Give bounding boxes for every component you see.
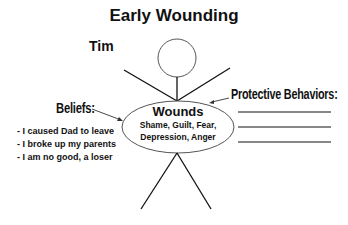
person-name: Tim [89, 38, 114, 54]
diagram-title: Early Wounding [0, 6, 348, 26]
beliefs-label: Beliefs: [56, 99, 95, 116]
belief-item: - I caused Dad to leave [17, 125, 116, 138]
belief-item: - I broke up my parents [17, 138, 116, 151]
figure-right-leg [177, 153, 211, 209]
figure-left-arm [124, 70, 177, 101]
beliefs-arrow [92, 109, 121, 120]
belief-item: - I am no good, a loser [17, 151, 116, 164]
wounds-title: Wounds [122, 104, 234, 119]
protective-arrow [212, 98, 229, 102]
figure-head [158, 39, 196, 77]
figure-right-arm [177, 68, 230, 101]
protective-behaviors-label: Protective Behaviors: [231, 85, 338, 102]
beliefs-list: - I caused Dad to leave - I broke up my … [17, 125, 116, 164]
wounds-line-1: Shame, Guilt, Fear, [122, 119, 234, 131]
wounds-line-2: Depression, Anger [122, 131, 234, 143]
figure-left-leg [141, 153, 177, 209]
wounds-content: Wounds Shame, Guilt, Fear, Depression, A… [122, 104, 234, 143]
